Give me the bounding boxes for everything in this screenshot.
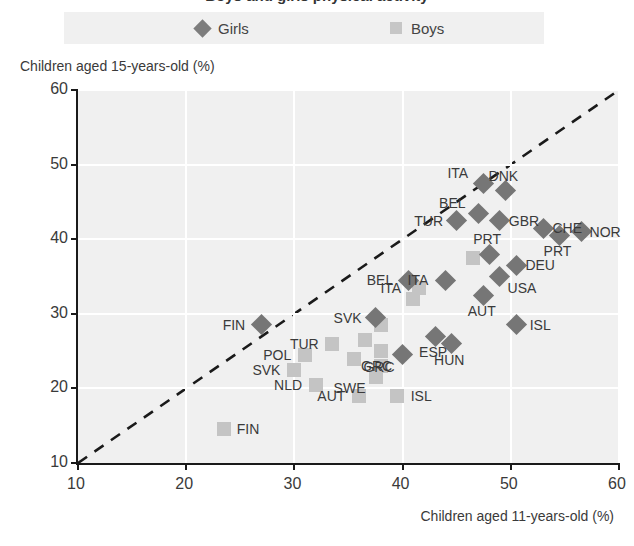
- y-axis-tick: [71, 462, 78, 464]
- data-point-label: AUT: [468, 303, 496, 319]
- gridline-vertical: [293, 90, 295, 463]
- legend-item-boys[interactable]: Boys: [390, 12, 444, 44]
- data-point-boys[interactable]: [390, 389, 404, 403]
- data-point-label: GBR: [509, 213, 539, 229]
- chart-title-text: Boys and girls physical activity: [0, 0, 634, 4]
- x-axis-tick-label: 60: [592, 475, 634, 493]
- data-point-boys[interactable]: [325, 337, 339, 351]
- y-axis-tick-label: 20: [24, 378, 68, 396]
- data-point-girls[interactable]: [506, 314, 527, 335]
- gridline-horizontal: [78, 238, 619, 240]
- x-axis-tick-label: 20: [159, 475, 209, 493]
- y-axis-tick: [71, 164, 78, 166]
- x-axis-tick-label: 50: [484, 475, 534, 493]
- y-axis-tick-label: 10: [24, 453, 68, 471]
- data-point-label: DEU: [525, 257, 555, 273]
- data-point-girls[interactable]: [251, 314, 272, 335]
- data-point-boys[interactable]: [287, 363, 301, 377]
- diamond-marker-icon: [193, 19, 211, 37]
- data-point-girls[interactable]: [392, 344, 413, 365]
- data-point-label: SVK: [334, 310, 362, 326]
- y-axis-tick: [71, 387, 78, 389]
- y-axis-tick-label: 60: [24, 80, 68, 98]
- gridline-horizontal: [78, 164, 619, 166]
- x-axis-tick: [77, 463, 79, 470]
- x-axis-title: Children aged 11-years-old (%): [0, 508, 614, 524]
- data-point-label: NOR: [590, 224, 621, 240]
- data-point-label: USA: [508, 280, 537, 296]
- data-point-label: BEL: [439, 195, 465, 211]
- data-point-girls[interactable]: [506, 255, 527, 276]
- data-point-label: FIN: [237, 421, 260, 437]
- x-axis-tick-label: 30: [267, 475, 317, 493]
- y-axis-tick-label: 30: [24, 304, 68, 322]
- x-axis-tick-label: 40: [376, 475, 426, 493]
- data-point-boys[interactable]: [347, 352, 361, 366]
- identity-reference-line: [78, 90, 619, 463]
- data-point-label: ITA: [447, 165, 468, 181]
- legend-label-girls: Girls: [218, 20, 249, 37]
- gridline-horizontal: [78, 89, 619, 91]
- y-axis-tick-label: 50: [24, 155, 68, 173]
- data-point-label: PRT: [473, 231, 501, 247]
- plot-area: [76, 90, 619, 465]
- data-point-girls[interactable]: [446, 210, 467, 231]
- data-point-label: DNK: [489, 168, 519, 184]
- data-point-label: ISL: [530, 317, 551, 333]
- data-point-label: BEL: [367, 272, 393, 288]
- y-axis-tick: [71, 89, 78, 91]
- y-axis-tick: [71, 238, 78, 240]
- legend-item-girls[interactable]: Girls: [196, 12, 249, 44]
- legend-label-boys: Boys: [411, 20, 444, 37]
- data-point-label: ISL: [411, 388, 432, 404]
- data-point-label: PRT: [544, 243, 572, 259]
- x-axis-tick: [185, 463, 187, 470]
- data-point-girls[interactable]: [468, 202, 489, 223]
- data-point-boys[interactable]: [374, 344, 388, 358]
- data-point-label: SWE: [334, 380, 366, 396]
- data-point-boys[interactable]: [406, 292, 420, 306]
- data-point-label: POL: [263, 347, 291, 363]
- x-axis-tick: [293, 463, 295, 470]
- data-point-label: TUR: [290, 336, 319, 352]
- data-point-girls[interactable]: [489, 210, 510, 231]
- data-point-label: CHE: [552, 220, 582, 236]
- square-marker-icon: [390, 22, 402, 34]
- data-point-boys[interactable]: [217, 422, 231, 436]
- x-axis-tick: [402, 463, 404, 470]
- data-point-label: TUR: [414, 213, 443, 229]
- data-point-label: SVK: [252, 362, 280, 378]
- data-point-label: FIN: [223, 317, 246, 333]
- data-point-boys[interactable]: [466, 251, 480, 265]
- data-point-label: ITA: [408, 272, 429, 288]
- gridline-vertical: [618, 90, 620, 463]
- x-axis-tick: [618, 463, 620, 470]
- x-axis-tick-label: 10: [51, 475, 101, 493]
- y-axis-tick: [71, 313, 78, 315]
- data-point-label: GRC: [361, 358, 392, 374]
- data-point-boys[interactable]: [358, 333, 372, 347]
- legend: Girls Boys: [64, 12, 544, 44]
- data-point-label: HUN: [434, 352, 464, 368]
- y-axis-tick-label: 40: [24, 229, 68, 247]
- x-axis-tick: [510, 463, 512, 470]
- chart-title-clipped: Boys and girls physical activity: [0, 0, 634, 11]
- data-point-girls[interactable]: [435, 270, 456, 291]
- gridline-vertical: [185, 90, 187, 463]
- data-point-label: NLD: [274, 377, 302, 393]
- y-axis-title: Children aged 15-years-old (%): [20, 58, 215, 74]
